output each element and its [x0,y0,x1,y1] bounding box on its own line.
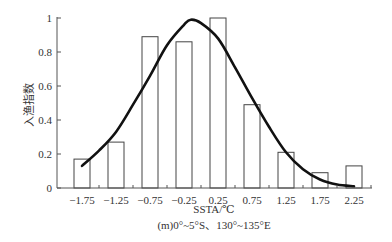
y-tick-label: 0.6 [38,80,52,92]
y-tick-label: 1 [47,12,53,24]
y-ticks: 00.20.40.60.81 [38,12,61,194]
y-axis-label: 入渔指数 [22,83,35,127]
bar-0.75 [244,105,260,188]
chart-subtitle: (m)0°~5°S、130°~135°E [157,219,270,232]
x-tick-label: −0.75 [137,194,163,206]
x-tick-label: −1.75 [69,194,95,206]
bars [74,18,362,188]
y-tick-label: 0.8 [38,46,52,58]
bar-chart: 00.20.40.60.81 −1.75−1.25−0.75−0.250.250… [0,0,392,242]
bar--0.75 [142,37,158,188]
y-tick-label: 0 [47,182,53,194]
x-tick-label: −1.25 [103,194,129,206]
bar--1.25 [108,142,124,188]
y-tick-label: 0.2 [38,148,52,160]
x-axis-label: SSTA/℃ [193,203,234,215]
x-tick-label: 2.25 [344,194,364,206]
x-tick-label: 0.75 [242,194,262,206]
bar--1.75 [74,159,90,188]
bar-0.25 [210,18,226,188]
x-tick-label: 1.75 [310,194,330,206]
y-tick-label: 0.4 [38,114,52,126]
x-tick-label: 1.25 [276,194,296,206]
bar--0.25 [176,42,192,188]
